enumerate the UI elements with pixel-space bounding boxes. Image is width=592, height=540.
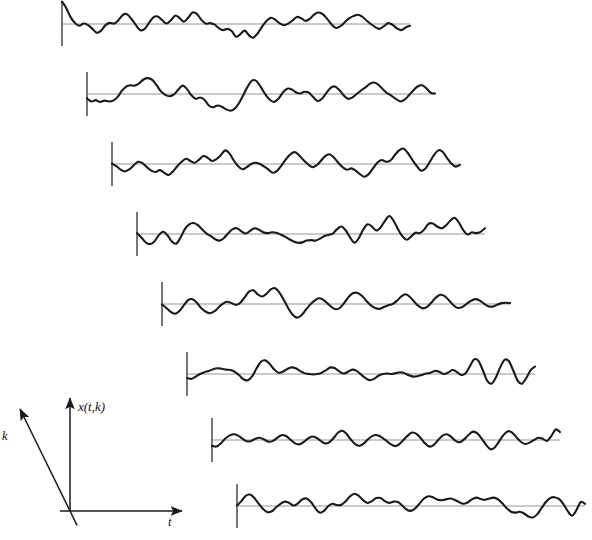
ensemble-plot: x(t,k) t k	[0, 0, 592, 540]
k-axis-label: k	[2, 429, 8, 443]
x-axis-label: x(t,k)	[77, 399, 105, 414]
figure-canvas: x(t,k) t k	[0, 0, 592, 540]
t-axis-label: t	[168, 515, 172, 529]
plot-background	[0, 0, 592, 540]
